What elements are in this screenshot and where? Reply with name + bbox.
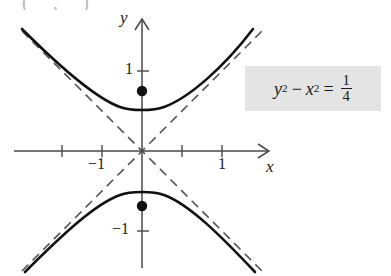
- y-tick-label-1: 1: [125, 60, 133, 78]
- x-tick-label-1: 1: [218, 155, 226, 173]
- equation-operator: −: [292, 80, 302, 98]
- y-axis-label: y: [120, 8, 128, 28]
- y-tick-label--1: −1: [112, 220, 129, 238]
- fraction-denominator: 4: [341, 88, 352, 105]
- equation-callout-box: y2 − x2 = 1 4: [245, 66, 381, 111]
- hyperbola-figure: ( , ): [0, 0, 391, 276]
- equation-fraction: 1 4: [341, 73, 352, 105]
- x-axis-label: x: [266, 157, 274, 177]
- equation-expression: y2 − x2 = 1 4: [274, 73, 352, 105]
- upper-point-marker: [137, 86, 147, 96]
- equation-x-variable: x: [306, 80, 314, 98]
- equation-equals-sign: =: [323, 80, 333, 98]
- lower-point-marker: [137, 201, 147, 211]
- fraction-numerator: 1: [341, 73, 352, 89]
- upper-branch-curve: [22, 29, 253, 110]
- equation-x-exponent: 2: [314, 83, 320, 94]
- plot-canvas: [0, 0, 391, 276]
- equation-y-variable: y: [274, 80, 282, 98]
- equation-y-exponent: 2: [282, 83, 288, 94]
- x-tick-label--1: −1: [88, 155, 105, 173]
